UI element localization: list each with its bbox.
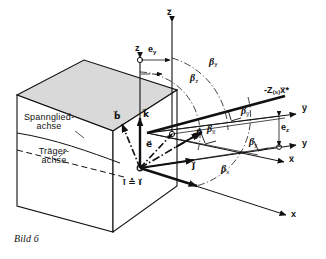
eccentricity-ey-label: ey bbox=[148, 45, 157, 55]
girder-axis-label: Träger- achse bbox=[22, 147, 86, 166]
vector-label-e: e⃗ bbox=[146, 140, 152, 149]
ez-subscript: z bbox=[286, 127, 289, 133]
angle-label-beta-x: βx bbox=[221, 164, 229, 175]
axis-label-z: z bbox=[135, 44, 140, 53]
tendon-axis-label: Spannglied- achse bbox=[13, 113, 85, 132]
axis-label-y: y bbox=[302, 139, 307, 148]
beta-y-subscript: y bbox=[254, 142, 257, 148]
ey-subscript: y bbox=[153, 49, 156, 55]
beta-x-subscript: x bbox=[226, 169, 229, 175]
ey-dimension bbox=[141, 60, 170, 74]
eccentricity-ez-label: ez bbox=[281, 123, 289, 133]
vector-label-i-equiv: ī ≙ i⃗ bbox=[123, 178, 142, 187]
angle-label-beta-y-bar: βy̅ bbox=[241, 106, 249, 117]
figure-caption: Bild 6 bbox=[14, 234, 39, 245]
angle-label-beta-z-bar: βz̅ bbox=[209, 57, 217, 68]
beta-y-bar-subscript: y̅ bbox=[246, 111, 249, 117]
beta-z-bar-subscript: z̅ bbox=[214, 62, 217, 68]
axis-label-x: x bbox=[291, 210, 296, 219]
axis-label-y-bar: y̅ bbox=[302, 104, 307, 113]
beta-x-bar-subscript: x̅ bbox=[212, 129, 215, 135]
force-direction: x̅* bbox=[280, 85, 289, 95]
vector-label-k: k⃗ bbox=[143, 110, 149, 119]
axis-label-x-bar: x̅ bbox=[289, 155, 294, 164]
vector-label-n: n⃗ bbox=[196, 128, 203, 137]
vector-label-b: b⃗ bbox=[114, 112, 121, 121]
tendon-axis-label-line2: achse bbox=[36, 121, 61, 131]
force-prefix: -Z bbox=[264, 85, 273, 95]
angle-label-beta-z: βz bbox=[190, 73, 198, 84]
beta-z-subscript: z bbox=[195, 78, 198, 84]
angle-label-beta-x-bar: βx̅ bbox=[207, 124, 215, 135]
vector-label-j: j⃗ bbox=[192, 161, 195, 170]
axis-label-z-bar: z̅ bbox=[167, 8, 172, 17]
angle-label-beta-y: βy bbox=[249, 137, 257, 148]
figure-bild-6: Spannglied- achse Träger- achse z z̅ y̅ … bbox=[0, 0, 326, 259]
girder-axis-label-line2: achse bbox=[41, 155, 66, 165]
force-vector-label: -Z(s)x̅* bbox=[264, 86, 289, 95]
